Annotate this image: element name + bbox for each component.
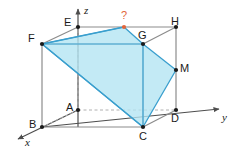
vertex-dot-M (174, 68, 178, 72)
vertex-dot-unknown (122, 25, 126, 29)
vertex-dot-F (40, 42, 44, 46)
vertex-label-M: M (180, 63, 189, 74)
geometry-figure: A B C D E F G H M ? z y x (0, 0, 237, 151)
edge-G-H (143, 27, 176, 44)
vertex-label-F: F (28, 33, 35, 44)
vertex-label-E: E (64, 17, 71, 28)
vertex-dot-A (76, 108, 80, 112)
axis-label-z: z (84, 5, 88, 16)
vertex-dot-C (141, 125, 145, 129)
unknown-point-label: ? (121, 10, 127, 21)
vertex-label-C: C (139, 131, 147, 142)
vertex-dot-G (141, 42, 145, 46)
vertex-label-B: B (29, 119, 36, 130)
vertex-dot-E (76, 25, 80, 29)
axis-label-y: y (222, 112, 227, 123)
vertex-label-D: D (171, 113, 179, 124)
cross-section-polygon (42, 27, 176, 127)
vertex-label-G: G (138, 30, 147, 41)
vertex-dot-B (40, 125, 44, 129)
vertex-label-A: A (66, 102, 73, 113)
axis-label-x: x (25, 137, 30, 148)
vertex-label-H: H (171, 16, 179, 27)
